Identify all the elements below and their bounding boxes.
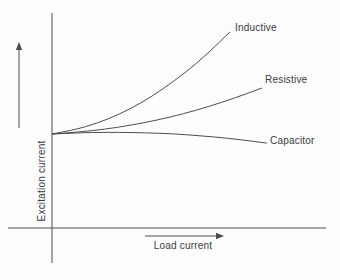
curve-group [52, 32, 267, 143]
y-axis-direction-arrow-icon [16, 42, 22, 128]
x-axis-label: Load current [154, 241, 213, 251]
curve-capacitor [52, 132, 267, 143]
excitation-vs-load-current-chart: Excitation current Load current Inductiv… [0, 0, 340, 280]
x-axis-direction-arrow-icon [145, 233, 224, 239]
series-label-capacitor: Capacitor [270, 136, 315, 146]
curve-inductive [52, 32, 230, 134]
series-label-resistive: Resistive [265, 75, 307, 85]
y-axis-label: Excitation current [37, 141, 47, 222]
series-label-inductive: Inductive [235, 23, 277, 33]
